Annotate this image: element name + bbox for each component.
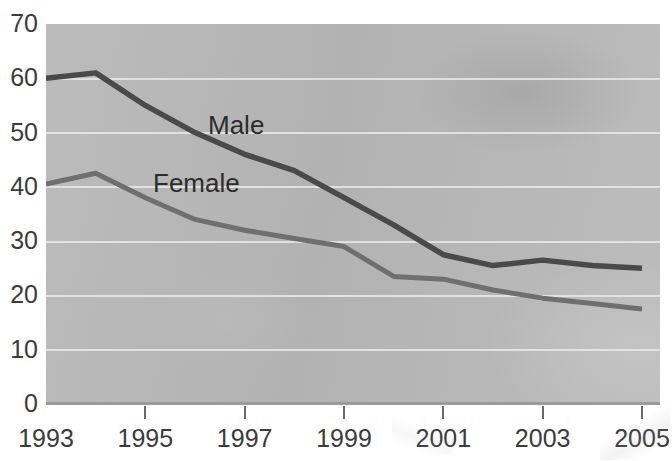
y-axis-labels: 706050403020100 — [0, 0, 38, 461]
x-tick-label: 2001 — [416, 424, 472, 452]
series-line-male — [46, 73, 642, 268]
y-tick-label: 0 — [0, 391, 38, 416]
y-tick-label: 10 — [0, 337, 38, 362]
y-tick-label: 60 — [0, 65, 38, 90]
x-tick-label: 1993 — [18, 424, 74, 452]
x-tick-label: 2005 — [614, 424, 670, 452]
clipped-title-remnant — [8, 0, 308, 5]
series-label-female: Female — [153, 170, 240, 196]
series-line-female — [46, 173, 642, 309]
series-lines — [46, 24, 660, 404]
x-tick-label: 1999 — [316, 424, 372, 452]
x-tick-mark — [641, 406, 643, 419]
x-tick-mark — [542, 406, 544, 419]
x-tick-mark — [244, 406, 246, 419]
y-tick-label: 20 — [0, 282, 38, 307]
x-axis-line — [46, 402, 660, 405]
x-tick-label: 2003 — [515, 424, 571, 452]
y-tick-label: 50 — [0, 120, 38, 145]
x-axis-labels: 1993199519971999200120032005 — [0, 424, 672, 458]
x-tick-mark — [343, 406, 345, 419]
plot-area: Male Female — [46, 24, 660, 404]
x-tick-label: 1997 — [217, 424, 273, 452]
x-tick-mark — [442, 406, 444, 419]
series-label-male: Male — [208, 112, 264, 138]
x-tick-mark — [144, 406, 146, 419]
line-chart-figure: Male Female 706050403020100 199319951997… — [0, 0, 672, 461]
x-tick-label: 1995 — [118, 424, 174, 452]
y-tick-label: 30 — [0, 228, 38, 253]
y-tick-label: 70 — [0, 11, 38, 36]
y-tick-label: 40 — [0, 174, 38, 199]
